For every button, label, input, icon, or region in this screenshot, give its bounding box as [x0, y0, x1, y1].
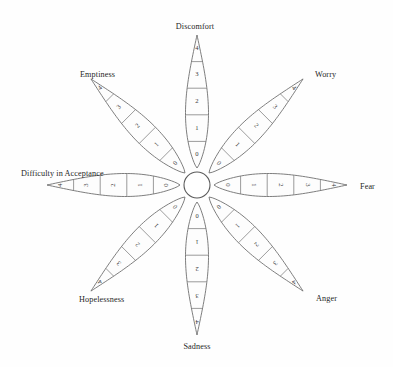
petal-label-worry: Worry — [315, 70, 336, 79]
petal-anger[interactable]: 01234 — [209, 197, 303, 291]
segment-value-1: 1 — [251, 183, 258, 186]
segment-value-1: 1 — [195, 124, 198, 131]
petal-label-difficulty-in-acceptance: Difficulty in Acceptance — [21, 169, 104, 178]
petal-hopelessness[interactable]: 01234 — [91, 197, 185, 291]
wheel-canvas: 0123401234012340123401234012340123401234 — [0, 0, 393, 367]
segment-value-1: 1 — [136, 183, 143, 186]
petal-emptiness[interactable]: 01234 — [91, 79, 185, 173]
petal-discomfort[interactable]: 01234 — [186, 35, 209, 168]
emotion-wheel-diagram: 0123401234012340123401234012340123401234… — [0, 0, 393, 367]
petal-label-fear: Fear — [360, 182, 375, 191]
petal-worry[interactable]: 01234 — [209, 79, 303, 173]
segment-value-2: 2 — [195, 266, 198, 273]
petal-label-emptiness: Emptiness — [80, 70, 115, 79]
segment-value-2: 2 — [278, 183, 285, 186]
segment-value-2: 2 — [109, 183, 116, 186]
petal-label-hopelessness: Hopelessness — [79, 295, 124, 304]
petal-label-discomfort: Discomfort — [176, 22, 214, 31]
petal-fear[interactable]: 01234 — [214, 174, 347, 197]
petal-sadness[interactable]: 01234 — [186, 202, 209, 335]
segment-value-1: 1 — [195, 239, 198, 246]
petal-label-sadness: Sadness — [183, 342, 210, 351]
petal-label-anger: Anger — [316, 294, 337, 303]
center-hub-circle[interactable] — [184, 172, 210, 198]
segment-value-2: 2 — [195, 97, 198, 104]
